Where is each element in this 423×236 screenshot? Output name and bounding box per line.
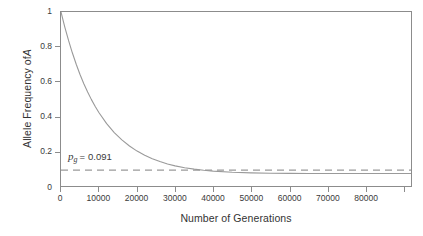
annotation-subscript: g (74, 155, 78, 164)
y-tick-label-0-8: 0.8 (40, 42, 52, 51)
y-axis-title: Allele Frequency of A (18, 0, 36, 197)
x-tick-mark-50000 (251, 187, 252, 192)
y-tick-label-0-4: 0.4 (40, 112, 52, 121)
x-tick-label-0: 0 (58, 194, 63, 203)
x-tick-mark-40000 (213, 187, 214, 192)
plot-area (60, 11, 412, 187)
chart-figure: Allele Frequency of A 1 0.8 0.6 0.4 0.2 … (0, 0, 423, 236)
x-tick-mark-80000 (366, 187, 367, 192)
y-axis-title-italic: A (21, 49, 33, 56)
x-tick-label-80000: 80000 (354, 194, 378, 203)
y-tick-label-0: 0 (47, 183, 52, 192)
y-tick-label-0-2: 0.2 (40, 147, 52, 156)
x-tick-mark-70000 (328, 187, 329, 192)
x-tick-label-30000: 30000 (163, 194, 187, 203)
x-tick-label-60000: 60000 (278, 194, 302, 203)
x-tick-mark-20000 (137, 187, 138, 192)
y-axis-title-prefix: Allele Frequency of (21, 56, 33, 148)
x-tick-mark-90000 (404, 187, 405, 192)
x-tick-label-20000: 20000 (125, 194, 149, 203)
y-tick-label-1: 1 (47, 7, 52, 16)
x-tick-label-50000: 50000 (239, 194, 263, 203)
x-tick-label-10000: 10000 (86, 194, 110, 203)
equilibrium-frequency-annotation: pg=0.091 (68, 150, 112, 164)
x-axis-title: Number of Generations (60, 212, 412, 224)
x-tick-mark-30000 (175, 187, 176, 192)
x-tick-mark-10000 (98, 187, 99, 192)
y-tick-label-0-6: 0.6 (40, 77, 52, 86)
x-tick-mark-0 (60, 187, 61, 192)
chart-canvas (61, 12, 411, 186)
annotation-value: 0.091 (88, 151, 112, 162)
x-tick-label-40000: 40000 (201, 194, 225, 203)
x-tick-label-70000: 70000 (316, 194, 340, 203)
allele-frequency-curve (61, 12, 411, 174)
annotation-operator: = (80, 151, 86, 162)
x-tick-mark-60000 (290, 187, 291, 192)
